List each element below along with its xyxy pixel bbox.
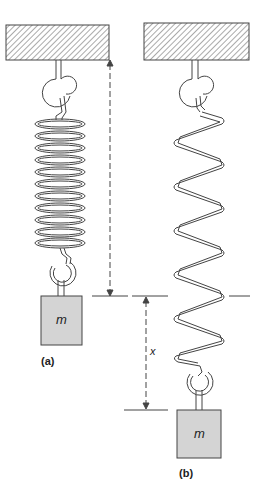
length-dimension-a — [92, 60, 128, 296]
panel-label-a: (a) — [41, 355, 54, 367]
bottom-hook-b — [187, 366, 213, 410]
top-hook-b — [179, 60, 213, 112]
ceiling-a — [6, 25, 109, 60]
spring-a — [35, 119, 85, 248]
top-hook-a — [42, 60, 76, 120]
panel-a — [6, 25, 128, 345]
displacement-label-x: x — [150, 345, 156, 357]
panel-label-b: (b) — [179, 467, 193, 479]
mass-label-a: m — [56, 312, 67, 327]
bottom-hook-a — [50, 248, 76, 296]
ceiling-b — [144, 23, 249, 60]
spring-mass-diagram — [0, 0, 267, 502]
spring-b — [174, 112, 224, 366]
panel-b — [124, 23, 250, 458]
mass-label-b: m — [194, 426, 205, 441]
